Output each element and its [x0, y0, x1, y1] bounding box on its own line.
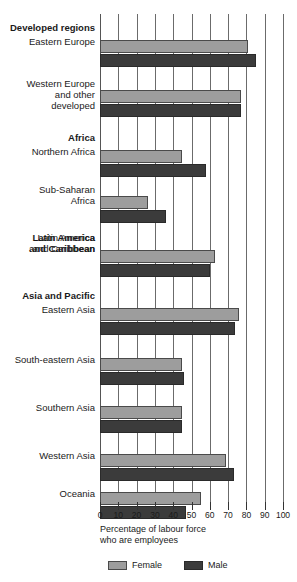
gridline-100 — [283, 14, 284, 502]
axis-tick-60 — [210, 502, 211, 510]
axis-tick-label-100: 100 — [276, 510, 290, 520]
axis-tick-80 — [246, 502, 247, 510]
category-label: Western Asia — [39, 450, 95, 461]
axis-tick-label-0: 0 — [98, 510, 103, 520]
legend-item-male: Male — [184, 560, 228, 570]
bar-male — [100, 372, 184, 385]
bar-female — [100, 454, 226, 467]
axis-tick-40 — [173, 502, 174, 510]
category-label: Oceania — [60, 488, 95, 499]
axis-tick-0 — [100, 502, 101, 510]
axis-tick-30 — [155, 502, 156, 510]
axis-tick-label-10: 10 — [114, 510, 123, 520]
bar-male — [100, 264, 210, 277]
axis-tick-label-70: 70 — [223, 510, 232, 520]
category-label: South-eastern Asia — [15, 354, 95, 365]
bar-male — [100, 104, 241, 117]
legend-swatch-female — [108, 561, 127, 570]
group-header: Africa — [68, 132, 95, 143]
axis-tick-label-50: 50 — [187, 510, 196, 520]
bar-female — [100, 308, 239, 321]
group-header: Asia and Pacific — [22, 290, 95, 301]
category-label: Sub-Saharan Africa — [39, 184, 95, 206]
legend-item-female: Female — [108, 560, 162, 570]
bar-male — [100, 468, 234, 481]
bar-female — [100, 90, 241, 103]
bar-female — [100, 40, 248, 53]
group-header: Developed regions — [10, 22, 95, 33]
axis-tick-label-40: 40 — [168, 510, 177, 520]
bar-male — [100, 164, 206, 177]
bar-rows — [100, 14, 283, 502]
bar-male — [100, 420, 182, 433]
axis-tick-50 — [192, 502, 193, 510]
bar-male — [100, 210, 166, 223]
category-axis-labels: Eastern EuropeWestern Europe and other d… — [0, 14, 97, 502]
axis-tick-90 — [265, 502, 266, 510]
category-label: Southern Asia — [36, 402, 95, 413]
category-label: Western Europe and other developed — [27, 78, 95, 111]
bar-female — [100, 406, 182, 419]
value-axis-tick-labels: 0102030405060708090100 — [100, 510, 283, 522]
axis-tick-label-80: 80 — [242, 510, 251, 520]
legend-label-male: Male — [208, 560, 228, 570]
legend-swatch-male — [184, 561, 203, 570]
legend: Female Male — [108, 560, 228, 570]
axis-tick-label-60: 60 — [205, 510, 214, 520]
axis-tick-label-90: 90 — [260, 510, 269, 520]
group-header: Latin America and Caribbean — [0, 232, 95, 254]
axis-tick-20 — [137, 502, 138, 510]
bar-male — [100, 54, 256, 67]
category-label: Northern Africa — [32, 146, 95, 157]
bar-female — [100, 358, 182, 371]
legend-label-female: Female — [132, 560, 162, 570]
axis-tick-label-20: 20 — [132, 510, 141, 520]
value-axis-title: Percentage of labour force who are emplo… — [100, 524, 290, 546]
chart-root: Eastern EuropeWestern Europe and other d… — [0, 0, 297, 582]
bar-female — [100, 196, 148, 209]
axis-tick-100 — [283, 502, 284, 510]
axis-tick-70 — [228, 502, 229, 510]
bar-female — [100, 250, 215, 263]
bar-male — [100, 322, 235, 335]
axis-tick-10 — [118, 502, 119, 510]
bar-female — [100, 150, 182, 163]
plot-area — [100, 14, 283, 502]
value-axis-ticks — [100, 502, 283, 510]
axis-tick-label-30: 30 — [150, 510, 159, 520]
category-label: Eastern Asia — [42, 304, 95, 315]
category-label: Eastern Europe — [29, 36, 95, 47]
